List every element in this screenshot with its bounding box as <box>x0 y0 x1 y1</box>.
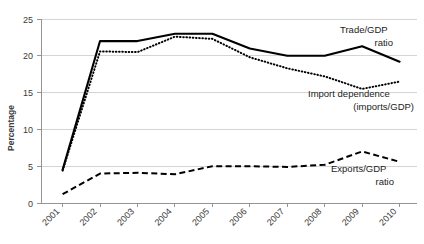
annotation-exports-gdp: Exports/GDP ratio <box>331 163 394 187</box>
x-tick-label-2009: 2009 <box>340 206 361 227</box>
y-tick-label-5: 5 <box>28 162 33 172</box>
x-tick-marks <box>63 203 400 207</box>
annotation-trade-gdp: Trade/GDP ratio <box>340 24 393 48</box>
annotation-exports-gdp-line1: Exports/GDP <box>331 163 386 174</box>
chart-container: 25 20 15 10 5 0 Percentage 2001 2002 200… <box>0 0 424 244</box>
annotation-trade-gdp-line2: ratio <box>375 37 393 48</box>
x-tick-label-2001: 2001 <box>40 206 61 227</box>
y-tick-label-10: 10 <box>23 125 33 135</box>
annotation-import-dependence: Import dependence (imports/GDP) <box>308 88 414 112</box>
x-tick-label-2002: 2002 <box>78 206 99 227</box>
x-tick-label-2010: 2010 <box>377 206 398 227</box>
x-tick-label-2003: 2003 <box>115 206 136 227</box>
annotation-trade-gdp-line1: Trade/GDP <box>340 24 388 35</box>
line-chart: 25 20 15 10 5 0 Percentage 2001 2002 200… <box>0 0 424 244</box>
y-tick-label-15: 15 <box>23 88 33 98</box>
x-tick-label-2007: 2007 <box>265 206 286 227</box>
x-tick-label-2004: 2004 <box>152 206 173 227</box>
y-tick-labels: 25 20 15 10 5 0 <box>23 15 33 209</box>
x-tick-label-2008: 2008 <box>302 206 323 227</box>
annotation-import-dependence-line2: (imports/GDP) <box>353 101 414 112</box>
y-tick-label-20: 20 <box>23 51 33 61</box>
annotation-exports-gdp-line2: ratio <box>376 176 394 187</box>
series-import-dependence <box>63 37 400 171</box>
y-tick-label-25: 25 <box>23 15 33 25</box>
series-trade-gdp <box>63 34 400 170</box>
y-axis-title: Percentage <box>6 105 16 151</box>
y-tick-label-0: 0 <box>28 199 33 209</box>
x-tick-label-2006: 2006 <box>227 206 248 227</box>
annotation-import-dependence-line1: Import dependence <box>308 88 390 99</box>
x-tick-label-2005: 2005 <box>190 206 211 227</box>
x-tick-labels: 2001 2002 2003 2004 2005 2006 2007 2008 … <box>40 206 398 227</box>
y-tick-marks <box>37 19 41 203</box>
